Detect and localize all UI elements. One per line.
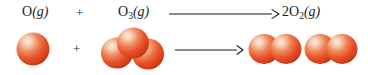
product-formula: 2O2(g) [282, 5, 320, 21]
product-coefficient: 2 [282, 4, 289, 19]
product-state: (g) [304, 4, 320, 19]
plus-sign-model-row: + [73, 41, 80, 57]
reaction-arrow-icon [168, 6, 280, 22]
sphere-oxygen-right [271, 34, 302, 64]
dioxygen-model-2 [304, 29, 360, 69]
ozone-model [100, 26, 170, 72]
dioxygen-model-1 [248, 29, 304, 69]
reaction-arrow-model-icon [174, 43, 244, 57]
sphere-oxygen-right [327, 34, 358, 64]
plus-sign-formula-row: + [76, 6, 83, 19]
reactant-atom-state: (g) [32, 4, 48, 19]
reactant-molecule-formula: O3(g) [118, 5, 149, 21]
reactant-atom-element: O [22, 4, 32, 19]
sphere-oxygen [17, 33, 50, 66]
reactant-molecule-element: O [118, 4, 128, 19]
sphere-oxygen-center [117, 28, 149, 59]
product-element: O [289, 4, 299, 19]
reactant-atom-formula: O(g) [22, 5, 48, 19]
reactant-molecule-state: (g) [133, 4, 149, 19]
chemical-equation-figure: O(g) + O3(g) 2O2(g) + [0, 0, 368, 75]
oxygen-atom-model [14, 28, 54, 70]
